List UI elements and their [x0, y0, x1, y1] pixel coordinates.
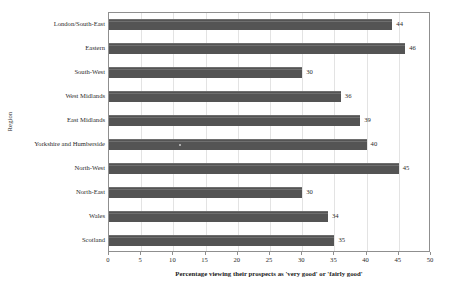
x-tick-mark [366, 252, 367, 255]
y-tick-label: Yorkshire and Humberside [34, 138, 105, 149]
y-tick-label: Eastern [85, 42, 105, 53]
bar-value-label: 46 [409, 42, 416, 53]
x-axis-title: Percentage viewing their prospects as 'v… [108, 270, 430, 277]
bar-row: East Midlands39 [109, 109, 429, 133]
x-tick-mark [108, 252, 109, 255]
bar-value-label: 30 [306, 186, 313, 197]
bar [109, 211, 328, 222]
x-tick-label: 15 [201, 256, 208, 263]
bar-row: Eastern46 [109, 37, 429, 61]
bar [109, 235, 334, 246]
y-tick-label: London/South-East [54, 18, 105, 29]
bar-chart: Region London/South-East44Eastern46South… [0, 0, 460, 290]
bar [109, 187, 302, 198]
bar-value-label: 40 [371, 138, 378, 149]
bar [109, 67, 302, 78]
x-tick-label: 0 [106, 256, 109, 263]
bar [109, 19, 392, 30]
x-tick-mark [333, 252, 334, 255]
x-tick-mark [301, 252, 302, 255]
bar-value-label: 45 [403, 162, 410, 173]
y-tick-label: South-West [74, 66, 105, 77]
bar-row: North-East30 [109, 181, 429, 205]
x-tick-label: 25 [266, 256, 273, 263]
y-tick-label: North-West [74, 162, 105, 173]
x-tick-label: 10 [169, 256, 176, 263]
x-tick-label: 45 [395, 256, 402, 263]
bar-value-label: 34 [332, 210, 339, 221]
bar-row: Wales34 [109, 205, 429, 229]
x-tick-mark [430, 252, 431, 255]
bar-value-label: 30 [306, 66, 313, 77]
bar [109, 43, 405, 54]
bar-value-label: 39 [364, 114, 371, 125]
bar-row: Yorkshire and Humberside40 [109, 133, 429, 157]
x-tick-label: 40 [362, 256, 369, 263]
bar-artifact-dot [179, 144, 181, 146]
x-tick-mark [172, 252, 173, 255]
bar-value-label: 44 [396, 18, 403, 29]
bar-row: Scotland35 [109, 229, 429, 253]
y-axis-title: Region [6, 92, 13, 152]
bar-value-label: 35 [338, 234, 345, 245]
plot-area: London/South-East44Eastern46South-West30… [108, 12, 430, 252]
bar-row: South-West30 [109, 61, 429, 85]
x-tick-label: 20 [234, 256, 241, 263]
x-tick-mark [140, 252, 141, 255]
bar-row: London/South-East44 [109, 13, 429, 37]
bar-value-label: 36 [345, 90, 352, 101]
x-tick-mark [398, 252, 399, 255]
x-tick-mark [205, 252, 206, 255]
bar-row: West Midlands36 [109, 85, 429, 109]
y-tick-label: West Midlands [65, 90, 105, 101]
bar [109, 139, 367, 150]
x-tick-label: 50 [427, 256, 434, 263]
y-tick-label: North-East [76, 186, 105, 197]
bar [109, 115, 360, 126]
x-tick-mark [237, 252, 238, 255]
x-tick-label: 5 [139, 256, 142, 263]
bar [109, 163, 399, 174]
x-tick-label: 35 [330, 256, 337, 263]
bar [109, 91, 341, 102]
x-tick-mark [269, 252, 270, 255]
y-tick-label: East Midlands [67, 114, 105, 125]
bar-row: North-West45 [109, 157, 429, 181]
y-tick-label: Wales [89, 210, 105, 221]
y-tick-label: Scotland [82, 234, 105, 245]
x-tick-label: 30 [298, 256, 305, 263]
